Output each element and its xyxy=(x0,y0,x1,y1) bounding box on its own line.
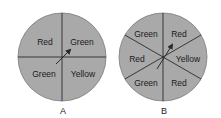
spinner-b-label-yellow: Yellow xyxy=(176,54,201,64)
spinner-b-caption: B xyxy=(161,106,167,116)
spinner-a-label-red: Red xyxy=(37,37,53,47)
spinner-b-label-green-top: Green xyxy=(134,29,158,39)
spinner-b: Green Red Red Yellow Green Red B xyxy=(119,13,207,116)
spinner-b-label-red-left: Red xyxy=(129,54,145,64)
spinner-a: Red Green Green Yellow A xyxy=(18,13,106,116)
spinner-a-label-green-top: Green xyxy=(70,37,94,47)
spinner-a-label-green-bottom: Green xyxy=(32,69,56,79)
spinner-b-label-red-bottom: Red xyxy=(171,78,187,88)
spinner-a-label-yellow: Yellow xyxy=(71,69,96,79)
spinner-a-caption: A xyxy=(60,106,66,116)
spinners-diagram: Red Green Green Yellow A Green Red Red Y… xyxy=(0,0,221,118)
spinner-b-label-red-top: Red xyxy=(171,29,187,39)
spinner-b-label-green-bottom: Green xyxy=(134,78,158,88)
